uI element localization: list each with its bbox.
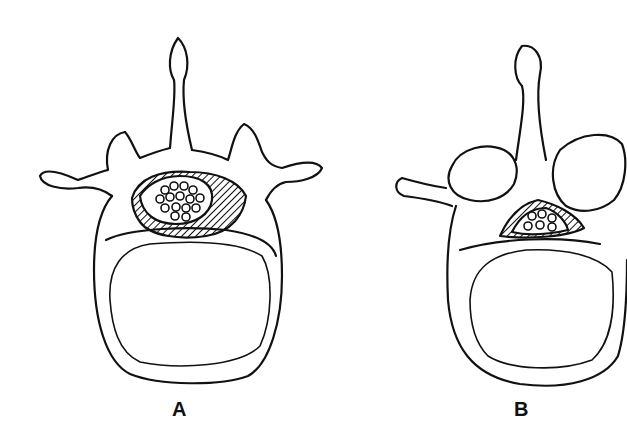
vertebra-illustration [0, 0, 627, 440]
panel-label-a: A [172, 398, 186, 421]
panel-label-b: B [514, 398, 528, 421]
vertebra-a [40, 38, 322, 383]
vertebra-b [396, 46, 627, 386]
